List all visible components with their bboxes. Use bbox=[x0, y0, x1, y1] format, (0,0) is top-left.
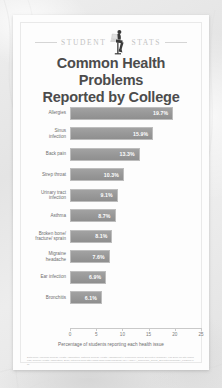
x-axis-tick bbox=[175, 328, 176, 331]
bar-value-label: 9.1% bbox=[100, 192, 116, 198]
x-axis-tick-label: 10 bbox=[120, 332, 125, 337]
bar-label: Migraineheadache bbox=[21, 247, 66, 268]
bar-track: 9.1% bbox=[70, 185, 201, 206]
x-axis-tick bbox=[201, 328, 202, 331]
x-axis-tick bbox=[96, 328, 97, 331]
x-axis-title: Percentage of students reporting each he… bbox=[23, 342, 199, 347]
bar[interactable]: 10.3% bbox=[70, 168, 124, 181]
bar-track: 8.1% bbox=[70, 226, 201, 247]
bar-label-line-2: fracture/ sprain bbox=[35, 236, 66, 242]
bar-value-label: 7.6% bbox=[93, 254, 109, 260]
student-with-laptop-icon bbox=[110, 29, 127, 55]
bar-label: Urinary tractinfection bbox=[21, 185, 66, 206]
bar-label: Broken bone/fracture/ sprain bbox=[21, 226, 66, 247]
bar[interactable]: 13.3% bbox=[70, 148, 140, 161]
bar[interactable]: 19.7% bbox=[70, 107, 173, 120]
x-axis-tick-label: 5 bbox=[95, 332, 98, 337]
bar-label: Strep throat bbox=[21, 165, 66, 186]
chart-row: Strep throat10.3% bbox=[21, 165, 201, 186]
x-axis: 0510152025 bbox=[70, 328, 201, 340]
x-axis-line bbox=[70, 328, 201, 329]
bar-value-label: 15.9% bbox=[133, 131, 152, 137]
x-axis-tick-label: 0 bbox=[69, 332, 72, 337]
bar-label: Sinusinfection bbox=[21, 124, 66, 145]
page-title-line-1: Common Health Problems bbox=[57, 55, 166, 88]
bar[interactable]: 8.1% bbox=[70, 230, 112, 243]
bar[interactable]: 15.9% bbox=[70, 127, 153, 140]
bar-value-label: 10.3% bbox=[104, 172, 123, 178]
bar-value-label: 6.1% bbox=[85, 295, 101, 301]
chart-row: Asthma8.7% bbox=[21, 206, 201, 227]
kicker-word-stats: STATS bbox=[131, 38, 161, 47]
bar-label: Allergies bbox=[21, 103, 66, 124]
bar-track: 19.7% bbox=[70, 103, 201, 124]
chart-row: Broken bone/fracture/ sprain8.1% bbox=[21, 226, 201, 247]
bar-label: Asthma bbox=[21, 206, 66, 227]
x-axis-tick-label: 20 bbox=[172, 332, 177, 337]
kicker-word-student: STUDENT bbox=[61, 38, 106, 47]
bar-value-label: 8.1% bbox=[95, 233, 111, 239]
source-note: Data from American College Health Associ… bbox=[27, 356, 195, 366]
infographic-page: STUDENT bbox=[0, 0, 222, 388]
chart-row: Sinusinfection15.9% bbox=[21, 124, 201, 145]
chart-row: Urinary tractinfection9.1% bbox=[21, 185, 201, 206]
x-axis-tick bbox=[70, 328, 71, 331]
bar-chart: Allergies19.7%Sinusinfection15.9%Back pa… bbox=[21, 103, 201, 328]
bar-track: 6.9% bbox=[70, 267, 201, 288]
bar-value-label: 13.3% bbox=[119, 151, 138, 157]
kicker-rule-right bbox=[165, 42, 187, 43]
bar-track: 8.7% bbox=[70, 206, 201, 227]
bar-label: Ear infection bbox=[21, 267, 66, 288]
bar[interactable]: 9.1% bbox=[70, 189, 118, 202]
bar-track: 6.1% bbox=[70, 288, 201, 309]
bar-label-line-2: infection bbox=[49, 134, 66, 140]
bar-label-line-1: Allergies bbox=[48, 110, 66, 116]
chart-row: Back pain13.3% bbox=[21, 144, 201, 165]
kicker-rule-left bbox=[35, 42, 57, 43]
bar-label-line-1: Ear infection bbox=[40, 274, 66, 280]
bar-label-line-2: headache bbox=[46, 257, 66, 263]
chart-row: Allergies19.7% bbox=[21, 103, 201, 124]
bar-label: Bronchitis bbox=[21, 288, 66, 309]
infographic-card: STUDENT bbox=[13, 15, 209, 370]
chart-row: Bronchitis6.1% bbox=[21, 288, 201, 309]
kicker-banner: STUDENT bbox=[21, 29, 201, 55]
bar-label: Back pain bbox=[21, 144, 66, 165]
bar-value-label: 8.7% bbox=[98, 213, 114, 219]
bar-value-label: 6.9% bbox=[89, 274, 105, 280]
bar-value-label: 19.7% bbox=[153, 110, 172, 116]
bar[interactable]: 8.7% bbox=[70, 209, 116, 222]
bar[interactable]: 6.9% bbox=[70, 271, 106, 284]
bar-track: 15.9% bbox=[70, 124, 201, 145]
x-axis-tick-label: 15 bbox=[146, 332, 151, 337]
bar-label-line-1: Asthma bbox=[50, 213, 66, 219]
chart-row: Migraineheadache7.6% bbox=[21, 247, 201, 268]
bar-label-line-1: Back pain bbox=[46, 151, 66, 157]
chart-row: Ear infection6.9% bbox=[21, 267, 201, 288]
bar-track: 10.3% bbox=[70, 165, 201, 186]
bar-label-line-1: Bronchitis bbox=[46, 295, 66, 301]
bar[interactable]: 6.1% bbox=[70, 291, 102, 304]
bar-label-line-1: Strep throat bbox=[42, 172, 66, 178]
bar-label-line-2: infection bbox=[49, 195, 66, 201]
bar-track: 7.6% bbox=[70, 247, 201, 268]
x-axis-tick-label: 25 bbox=[198, 332, 203, 337]
x-axis-tick bbox=[149, 328, 150, 331]
bar[interactable]: 7.6% bbox=[70, 250, 110, 263]
x-axis-tick bbox=[122, 328, 123, 331]
bar-track: 13.3% bbox=[70, 144, 201, 165]
